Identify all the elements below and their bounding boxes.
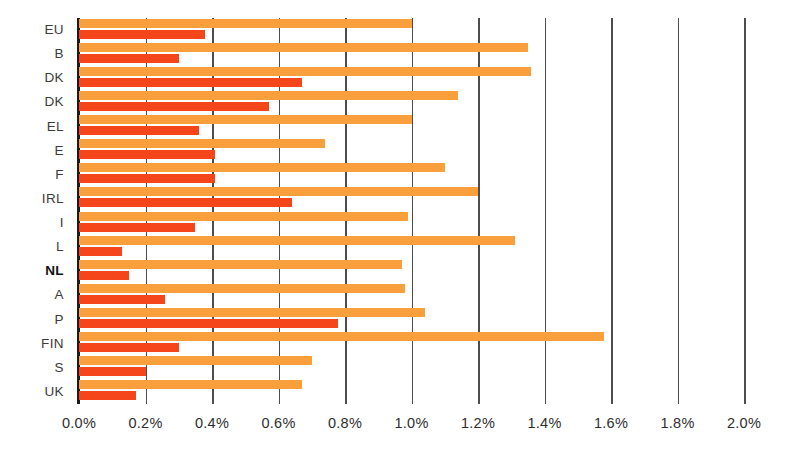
bar-chart: EUBDKDKELEFIRLILNLAPFINSUK 0.0%0.2%0.4%0… [0, 0, 798, 459]
category-label: EL [47, 115, 64, 139]
bar-row [79, 187, 744, 211]
category-label: DK [44, 66, 64, 90]
category-label: A [55, 283, 64, 307]
bar-series-red [79, 247, 122, 256]
category-axis-labels: EUBDKDKELEFIRLILNLAPFINSUK [0, 18, 72, 404]
x-tick-label: 0.2% [128, 415, 162, 431]
bar-series-orange [79, 260, 402, 269]
x-tick-label: 0.4% [195, 415, 229, 431]
category-label: NL [45, 259, 64, 283]
bar-series-red [79, 78, 302, 87]
bar-row [79, 356, 744, 380]
bar-series-red [79, 54, 179, 63]
bar-series-red [79, 343, 179, 352]
category-label: DK [44, 90, 64, 114]
category-label: F [55, 163, 64, 187]
category-label: E [55, 139, 64, 163]
bar-series-orange [79, 139, 325, 148]
bar-series-orange [79, 332, 604, 341]
bar-series-orange [79, 115, 412, 124]
bar-row [79, 42, 744, 66]
category-label: P [55, 308, 64, 332]
bar-row [79, 66, 744, 90]
bar-row [79, 115, 744, 139]
bar-series-red [79, 319, 338, 328]
value-axis-labels: 0.0%0.2%0.4%0.6%0.8%1.0%1.2%1.4%1.6%1.8%… [0, 415, 798, 445]
x-tick-label: 0.0% [62, 415, 96, 431]
bar-series-orange [79, 43, 528, 52]
bar-row [79, 211, 744, 235]
x-tick-label: 1.8% [660, 415, 694, 431]
bar-row [79, 163, 744, 187]
x-tick-label: 1.0% [394, 415, 428, 431]
bar-series-orange [79, 284, 405, 293]
bar-series-red [79, 367, 146, 376]
category-label: I [60, 211, 64, 235]
bar-series-orange [79, 19, 412, 28]
bar-series-orange [79, 163, 445, 172]
category-label: L [56, 235, 64, 259]
bar-series-orange [79, 356, 312, 365]
bar-row [79, 332, 744, 356]
bar-row [79, 308, 744, 332]
x-tick-label: 1.4% [527, 415, 561, 431]
bar-series-red [79, 174, 215, 183]
x-tick-label: 2.0% [727, 415, 761, 431]
category-label: B [55, 42, 64, 66]
plot-area [79, 18, 744, 404]
category-label: IRL [42, 187, 64, 211]
bar-series-red [79, 391, 136, 400]
x-tick-label: 1.6% [594, 415, 628, 431]
category-label: EU [44, 18, 64, 42]
bar-series-red [79, 126, 199, 135]
bar-row [79, 18, 744, 42]
bar-series-red [79, 271, 129, 280]
x-tick-label: 0.8% [328, 415, 362, 431]
category-label: S [55, 356, 64, 380]
bar-series-orange [79, 308, 425, 317]
bar-series-red [79, 198, 292, 207]
bar-series-orange [79, 380, 302, 389]
bar-series-orange [79, 187, 478, 196]
bar-series-orange [79, 236, 515, 245]
bar-series-red [79, 102, 269, 111]
bar-series-orange [79, 91, 458, 100]
bar-row [79, 283, 744, 307]
bar-series-red [79, 30, 205, 39]
x-tick-label: 1.2% [461, 415, 495, 431]
x-tick-label: 0.6% [261, 415, 295, 431]
category-label: FIN [41, 332, 64, 356]
bar-row [79, 259, 744, 283]
bar-series-red [79, 295, 165, 304]
bar-row [79, 380, 744, 404]
gridline-2.0% [744, 18, 746, 404]
bar-series-red [79, 150, 215, 159]
bar-series-red [79, 223, 195, 232]
bar-series-orange [79, 67, 531, 76]
bar-row [79, 90, 744, 114]
bar-row [79, 139, 744, 163]
bar-row [79, 235, 744, 259]
bar-series-orange [79, 212, 408, 221]
bar-rows [79, 18, 744, 404]
category-label: UK [44, 380, 64, 404]
